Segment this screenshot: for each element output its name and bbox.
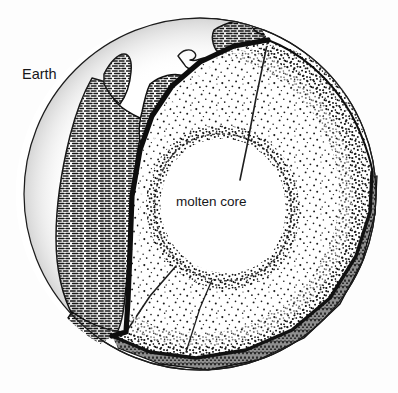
earth-diagram-canvas: Earth molten core [0,0,398,393]
earth-label: Earth [22,66,57,82]
earth-cutaway-figure: Earth molten core [0,0,398,393]
molten-core-label: molten core [176,194,247,209]
